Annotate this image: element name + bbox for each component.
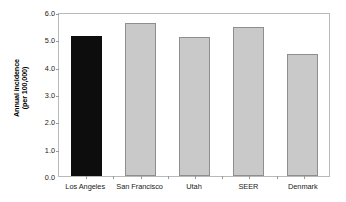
y-axis-tick-label: 4.0	[45, 63, 55, 72]
x-axis-tick-mark	[222, 176, 223, 179]
y-axis-title-line2: (per 100,000)	[21, 67, 30, 110]
y-axis-tick-label: 1.0	[45, 145, 55, 154]
y-axis-tick-label: 6.0	[45, 9, 55, 18]
bar-chart: Annual incidence (per 100,000) 0.01.02.0…	[0, 0, 346, 202]
bar	[71, 36, 102, 176]
bar-slot	[167, 14, 221, 176]
bar-slot	[113, 14, 167, 176]
x-axis-category-label: Los Angeles	[58, 182, 112, 196]
bar	[179, 37, 210, 176]
bar-series	[59, 14, 329, 176]
x-axis-category-label: SEER	[221, 182, 275, 196]
bar-slot	[221, 14, 275, 176]
bar	[287, 54, 318, 176]
y-axis-tick-mark	[56, 14, 59, 15]
bar	[233, 27, 264, 177]
x-axis-category-label: San Francisco	[112, 182, 166, 196]
y-axis-tick-mark	[56, 151, 59, 152]
y-axis-tick-label: 2.0	[45, 118, 55, 127]
plot-area	[58, 13, 330, 177]
x-axis-tick-mark	[113, 176, 114, 179]
x-axis-category-labels: Los AngelesSan FranciscoUtahSEERDenmark	[58, 182, 330, 196]
y-axis-title: Annual incidence (per 100,000)	[10, 38, 32, 138]
x-axis-tick-mark	[141, 176, 142, 179]
x-axis-tick-mark	[304, 176, 305, 179]
y-axis-tick-mark	[56, 69, 59, 70]
x-axis-tick-mark	[277, 176, 278, 179]
x-axis-category-label: Utah	[167, 182, 221, 196]
y-axis-tick-labels: 0.01.02.03.04.05.06.0	[33, 11, 55, 177]
y-axis-tick-label: 0.0	[45, 173, 55, 182]
x-axis-category-label: Denmark	[276, 182, 330, 196]
y-axis-tick-label: 3.0	[45, 91, 55, 100]
y-axis-tick-mark	[56, 123, 59, 124]
x-axis-tick-mark	[86, 176, 87, 179]
x-axis-tick-mark	[249, 176, 250, 179]
y-axis-tick-label: 5.0	[45, 36, 55, 45]
bar-slot	[59, 14, 113, 176]
x-axis-tick-mark	[195, 176, 196, 179]
y-axis-tick-mark	[56, 41, 59, 42]
bar	[125, 23, 156, 176]
bar-slot	[275, 14, 329, 176]
x-axis-tick-mark	[168, 176, 169, 179]
y-axis-tick-mark	[56, 96, 59, 97]
